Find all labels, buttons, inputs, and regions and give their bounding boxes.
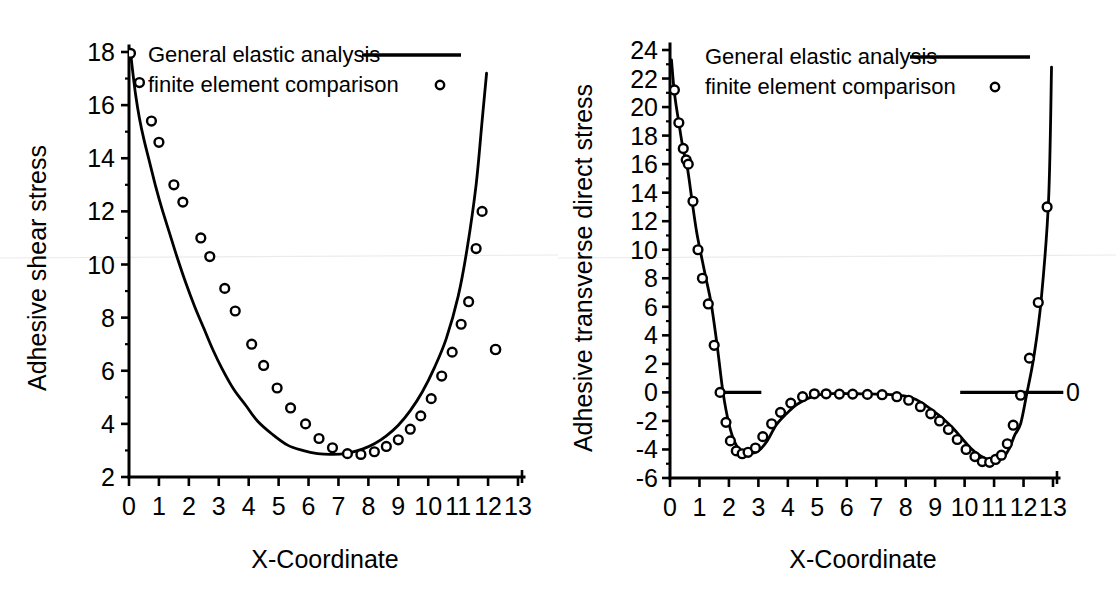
y-tick-label: 18 [630,122,658,150]
x-tick-label: 12 [1010,493,1038,521]
data-point-marker [220,284,229,293]
data-point-marker [863,390,872,399]
x-axis-title: X-Coordinate [251,545,398,573]
x-tick-label: 0 [663,493,677,521]
data-point-marker [343,449,352,458]
data-point-marker [135,78,144,87]
x-tick-label: 6 [840,493,854,521]
data-point-marker [694,245,703,254]
x-axis-title: X-Coordinate [789,545,936,573]
x-tick-label: 3 [212,492,226,520]
data-point-marker [315,434,324,443]
y-tick-label: 4 [101,410,115,438]
x-tick-label: 5 [272,492,286,520]
data-point-marker [892,392,901,401]
y-tick-label: 24 [630,36,658,64]
legend-label-general-elastic: General elastic analysis [148,42,380,67]
x-tick-label: 11 [445,492,471,520]
data-point-marker [328,443,337,452]
data-point-marker [205,252,214,261]
data-point-marker [904,396,913,405]
data-point-marker [674,118,683,127]
data-point-marker [944,425,953,434]
x-tick-label: 8 [899,493,913,521]
x-tick-label: 4 [242,492,256,520]
y-tick-label: 8 [101,304,115,332]
x-tick-label: 12 [474,492,502,520]
data-point-marker [126,49,135,58]
data-point-marker [259,361,268,370]
x-tick-label: 9 [928,493,942,521]
chart-panel-right: -6-4-20246810121416182022240123456789101… [558,0,1116,598]
data-point-marker [273,384,282,393]
y-tick-label: 8 [644,264,658,292]
data-point-marker [722,418,731,427]
data-point-marker [670,86,679,95]
data-point-marker [448,348,457,357]
y-tick-label: 22 [630,65,658,93]
y-tick-label: 6 [101,357,115,385]
data-point-marker [1043,203,1052,212]
x-tick-label: 2 [182,492,196,520]
data-point-marker [1009,421,1018,430]
data-point-marker [478,207,487,216]
data-point-marker [1003,439,1012,448]
right-chart-root: -6-4-20246810121416182022240123456789101… [558,36,1116,573]
data-point-marker [767,419,776,428]
data-point-marker [231,307,240,316]
y-tick-label: 0 [644,378,658,406]
data-point-marker [147,117,156,126]
legend-label-finite-element: finite element comparison [148,72,399,97]
y-tick-label: -6 [636,464,658,492]
y-tick-label: 16 [87,91,115,119]
data-point-marker [1016,391,1025,400]
y-axis-title: Adhesive transverse direct stress [569,84,597,452]
data-point-marker [926,409,935,418]
data-point-marker [997,451,1006,460]
x-tick-label: 5 [810,493,824,521]
y-tick-label: 10 [87,251,115,279]
x-tick-label: 0 [122,492,136,520]
x-tick-label: 9 [391,492,405,520]
data-point-marker [427,394,436,403]
x-tick-label: 1 [152,492,166,520]
data-point-marker [437,372,446,381]
data-point-marker [1034,298,1043,307]
data-point-marker [698,274,707,283]
data-point-marker [169,180,178,189]
x-tick-label: 13 [504,492,532,520]
series-curve-general-elastic [671,60,1051,461]
figure-page: 24681012141618012345678910111213Adhesive… [0,0,1116,598]
data-point-marker [370,447,379,456]
x-tick-label: 3 [751,493,765,521]
data-point-marker [962,445,971,454]
data-point-marker [716,388,725,397]
data-point-marker [689,197,698,206]
data-point-marker [679,144,688,153]
data-point-marker [822,389,831,398]
y-tick-label: -2 [636,407,658,435]
y-tick-label: 20 [630,93,658,121]
data-point-marker [301,419,310,428]
data-point-marker [196,234,205,243]
y-axis-title: Adhesive shear stress [23,145,51,391]
data-point-marker [394,435,403,444]
chart-pair: 24681012141618012345678910111213Adhesive… [0,0,1116,598]
legend: General elastic analysisfinite element c… [705,44,1030,99]
y-tick-label: 18 [87,38,115,66]
data-point-marker [726,437,735,446]
x-tick-label: 10 [414,492,442,520]
left-chart-root: 24681012141618012345678910111213Adhesive… [0,38,558,573]
x-tick-label: 8 [361,492,375,520]
data-point-marker [472,244,481,253]
data-point-marker [155,138,164,147]
legend: General elastic analysisfinite element c… [148,42,461,97]
x-tick-label: 7 [332,492,346,520]
data-point-marker [810,389,819,398]
scan-artifact-line [0,255,558,258]
y-tick-label: 2 [101,463,115,491]
zero-reference-label: 0 [1066,378,1080,406]
data-point-marker [758,432,767,441]
y-tick-label: 2 [644,350,658,378]
plot-area [670,60,1052,467]
